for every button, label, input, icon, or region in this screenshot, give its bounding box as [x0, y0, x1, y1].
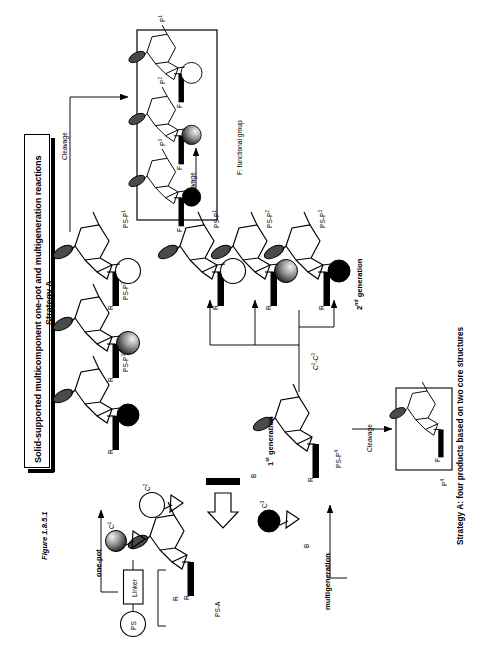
label-one-pot: one-pot: [94, 549, 103, 577]
atom-label-f-p3: F: [176, 228, 183, 232]
label-ps-p2-column: PS-P2PS-P2: [121, 282, 129, 300]
label-linker: Linker: [131, 579, 138, 597]
ps-a-assembly: [121, 560, 167, 637]
core-ps-p4: [251, 384, 319, 478]
label-ps-p1-column: PS-P1PS-P1: [121, 210, 129, 228]
label-p2: P2P2: [158, 77, 166, 84]
atom-label-r-g2-2: R: [265, 305, 272, 310]
label-cleavage-center: Cleavage: [189, 172, 196, 200]
label-cleavage-left: Cleavage: [61, 132, 68, 160]
atom-label-r-col-2: R: [107, 377, 114, 382]
reagent-b-hollow-arrow: [206, 478, 240, 528]
atom-label-r-col-3: R: [107, 449, 114, 454]
label-ps-a: PS-A: [214, 602, 221, 617]
label-ps-p4: PS-P4PS-P4: [334, 450, 342, 468]
label-c1: C1C1: [107, 522, 115, 529]
building-block-c2: [140, 493, 184, 518]
label-ps-p3-gen2: PS-P3PS-P3: [318, 210, 326, 228]
atom-label-r-g2-3: R: [318, 305, 325, 310]
label-ps-p1-gen2: PS-P1PS-P1: [212, 210, 220, 228]
label-cleavage-p4: Cleavage: [366, 424, 373, 452]
atom-label-f-p1: F: [176, 104, 183, 108]
core-ps-p1: [156, 212, 245, 306]
chemistry-artwork: [0, 0, 487, 659]
product-box-p4: [396, 388, 452, 470]
cleavage-arrow-left-column: [70, 97, 128, 232]
atom-label-f-p2: F: [176, 166, 183, 170]
second-gen-feed-arrows: [210, 300, 299, 345]
multigeneration-arrow: [330, 505, 347, 578]
atom-label-r-p4: R: [307, 477, 314, 482]
label-reagent-b-top: B: [250, 474, 257, 478]
label-multigeneration: multigeneration: [323, 553, 332, 610]
c1-c3-bracket: [299, 300, 334, 392]
atom-label-r-col-1: R: [107, 305, 114, 310]
atom-label-r-ps-a: R: [183, 595, 190, 600]
label-ps-p3-column: PS-P3PS-P3: [121, 354, 129, 372]
label-p4: P4P4: [440, 479, 448, 486]
label-second-generation: 2nd generation2nd generation: [353, 259, 364, 310]
label-reagent-b-multigen: B: [303, 544, 310, 548]
building-block-c3: [258, 510, 299, 532]
label-ps-p2-gen2: PS-P2PS-P2: [265, 210, 273, 228]
label-ps-bead: PS: [130, 621, 137, 630]
label-first-generation: 1st generation1st generation: [264, 416, 275, 466]
label-c2: C2C2: [143, 484, 151, 491]
atom-label-r-g2-1: R: [212, 305, 219, 310]
atom-label-f-p4: F: [434, 458, 441, 462]
label-r-bracket: R: [172, 596, 179, 601]
label-c3: C3C3: [260, 501, 268, 508]
label-p1: P1P1: [158, 15, 166, 22]
label-c1-c3: C1-C3C1-C3: [311, 353, 319, 370]
figure-canvas: Figure 1.8.5.1 Solid-supported multicomp…: [0, 0, 487, 659]
label-p3: P3P3: [158, 139, 166, 146]
